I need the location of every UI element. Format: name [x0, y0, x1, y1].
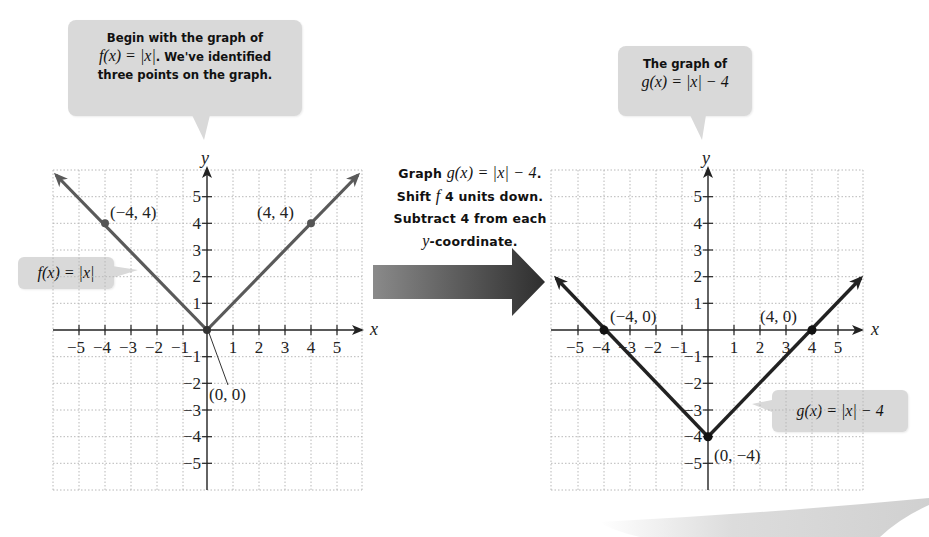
svg-text:−3: −3 — [684, 401, 702, 420]
svg-text:1: 1 — [730, 338, 739, 357]
svg-text:1: 1 — [694, 294, 703, 313]
point-f-origin — [203, 326, 211, 334]
label-point-4-0: (4, 0) — [760, 307, 797, 326]
point-f-4-4 — [307, 219, 315, 227]
svg-text:3: 3 — [281, 338, 290, 357]
label-point-neg4-4: (−4, 4) — [110, 203, 156, 222]
origin-leader-line — [209, 333, 228, 385]
svg-text:−3: −3 — [183, 401, 201, 420]
svg-text:−5: −5 — [183, 454, 201, 473]
svg-text:2: 2 — [694, 267, 703, 286]
svg-text:−1: −1 — [684, 347, 702, 366]
label-point-neg4-0: (−4, 0) — [610, 307, 656, 326]
svg-text:2: 2 — [756, 338, 765, 357]
graph-g: −5 −4 −3 −2 −1 1 2 3 4 5 5 4 3 2 1 −1 −2… — [551, 148, 879, 490]
x-axis-label-f: x — [369, 319, 378, 339]
graphs-canvas: −5 −4 −3 −2 −1 1 2 3 4 5 5 4 3 2 1 −1 −2… — [0, 0, 929, 537]
point-g-neg4-0 — [600, 326, 609, 335]
svg-text:2: 2 — [255, 338, 264, 357]
svg-text:−1: −1 — [183, 347, 201, 366]
svg-text:−4: −4 — [93, 338, 112, 357]
y-axis-label-f: y — [199, 148, 209, 168]
svg-text:2: 2 — [193, 267, 202, 286]
svg-text:3: 3 — [694, 241, 703, 260]
callout-tail-left — [192, 115, 210, 140]
svg-text:−3: −3 — [119, 338, 137, 357]
point-f-neg4-4 — [101, 219, 109, 227]
graph-f: −5 −4 −3 −2 −1 1 2 3 4 5 5 4 3 2 1 −1 −2… — [53, 148, 378, 490]
x-tick-labels-f: −5 −4 −3 −2 −1 1 2 3 4 5 — [67, 338, 341, 357]
y-axis-label-g: y — [700, 148, 710, 168]
svg-text:−4: −4 — [592, 338, 611, 357]
point-g-0-neg4 — [704, 432, 713, 441]
svg-text:4: 4 — [307, 338, 316, 357]
svg-text:−5: −5 — [67, 338, 85, 357]
label-point-0-neg4: (0, −4) — [714, 446, 760, 465]
svg-text:5: 5 — [694, 187, 703, 206]
svg-text:4: 4 — [193, 214, 202, 233]
svg-text:−5: −5 — [684, 454, 702, 473]
svg-text:−2: −2 — [183, 374, 201, 393]
svg-text:5: 5 — [834, 338, 843, 357]
svg-text:4: 4 — [808, 338, 817, 357]
callout-tail-right — [690, 115, 706, 140]
svg-text:−2: −2 — [644, 338, 662, 357]
svg-text:1: 1 — [193, 294, 202, 313]
label-point-0-0: (0, 0) — [209, 385, 246, 404]
label-point-4-4: (4, 4) — [257, 203, 294, 222]
transform-arrow-icon — [373, 248, 545, 316]
svg-text:4: 4 — [694, 214, 703, 233]
point-g-4-0 — [808, 326, 817, 335]
svg-text:−2: −2 — [684, 374, 702, 393]
svg-text:−4: −4 — [183, 427, 202, 446]
x-axis-label-g: x — [870, 319, 879, 339]
svg-text:5: 5 — [333, 338, 342, 357]
svg-text:−2: −2 — [145, 338, 163, 357]
f-right-branch — [207, 175, 358, 330]
svg-text:1: 1 — [229, 338, 238, 357]
decorative-swoosh — [600, 498, 929, 537]
svg-text:3: 3 — [193, 241, 202, 260]
svg-text:5: 5 — [193, 187, 202, 206]
svg-text:−5: −5 — [566, 338, 584, 357]
